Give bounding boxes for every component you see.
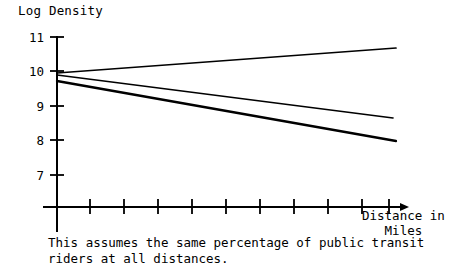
y-tick-label-11: 11 [22, 30, 44, 45]
series-line-rising [57, 48, 396, 73]
series-line-lower-falling [57, 81, 396, 141]
x-axis-title-line1: Distance in [362, 208, 445, 223]
figure-caption-line2: riders at all distances. [48, 251, 424, 267]
y-tick-label-7: 7 [22, 168, 44, 183]
y-tick-label-9: 9 [22, 99, 44, 114]
figure-caption: This assumes the same percentage of publ… [48, 235, 424, 267]
y-tick-label-8: 8 [22, 133, 44, 148]
figure-container: Log Density [0, 0, 460, 269]
figure-caption-line1: This assumes the same percentage of publ… [48, 235, 424, 251]
y-tick-label-10: 10 [22, 64, 44, 79]
x-axis-title: Distance in Miles [362, 208, 445, 238]
